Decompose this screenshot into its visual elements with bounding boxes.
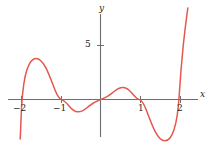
coordinate-plane-svg bbox=[0, 0, 215, 147]
graph-figure: y x −2 −1 1 2 5 bbox=[0, 0, 215, 147]
x-tick-label-1: 1 bbox=[138, 104, 144, 113]
x-tick-label-minus-2: −2 bbox=[13, 104, 26, 113]
x-axis-label: x bbox=[200, 90, 205, 99]
y-axis-label: y bbox=[99, 4, 104, 13]
polynomial-curve bbox=[20, 8, 188, 141]
x-tick-label-minus-1: −1 bbox=[53, 104, 66, 113]
y-tick-label-5: 5 bbox=[85, 40, 91, 49]
x-tick-label-2: 2 bbox=[177, 104, 183, 113]
